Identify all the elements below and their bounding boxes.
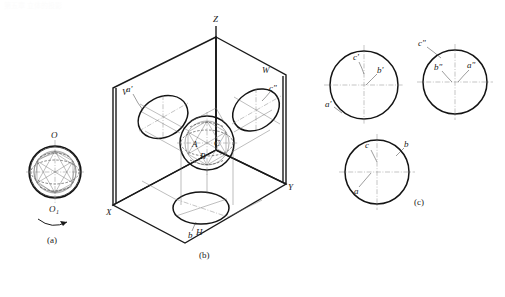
leader-b-prime-c bbox=[366, 74, 377, 85]
caption-b: (b) bbox=[199, 250, 210, 260]
label-b-b: b bbox=[188, 230, 193, 240]
figure-page: 第五章 立体的投影 bbox=[0, 0, 505, 297]
panel-a: O O 1 (a) bbox=[26, 130, 84, 245]
axis-label-z: Z bbox=[213, 14, 219, 24]
label-a-prime-b: a' bbox=[126, 84, 134, 94]
caption-a: (a) bbox=[47, 235, 57, 245]
leader-c-dprime-c bbox=[427, 47, 441, 58]
caption-c: (c) bbox=[414, 197, 424, 207]
panel-b: Z X Y V W H a' bbox=[105, 14, 294, 260]
leader-c-prime-c bbox=[359, 62, 364, 74]
projection-side-ellipse bbox=[225, 80, 288, 139]
page-header-text: 第五章 立体的投影 bbox=[4, 1, 62, 10]
leader-b-dprime-c bbox=[442, 71, 452, 82]
leader-a-prime bbox=[133, 94, 143, 110]
plane-v bbox=[113, 37, 216, 205]
technical-figure: 第五章 立体的投影 bbox=[0, 0, 505, 297]
panel-c: c' b' a' c" b" a" bbox=[324, 38, 493, 210]
leader-c-c bbox=[371, 150, 377, 162]
label-c-prime: c' bbox=[353, 52, 360, 62]
label-a-prime: a' bbox=[325, 99, 333, 109]
leader-a-c bbox=[359, 173, 371, 187]
axis-label-y: Y bbox=[288, 182, 294, 192]
label-b-prime: b' bbox=[377, 65, 385, 75]
plane-label-h: H bbox=[195, 227, 203, 237]
leader-c-dprime bbox=[262, 92, 270, 101]
side-view: c" b" a" bbox=[417, 38, 493, 120]
top-view: c b a bbox=[339, 134, 415, 210]
label-b-plain: b bbox=[404, 139, 409, 149]
label-a-dprime: a" bbox=[467, 60, 476, 70]
label-point-c: C bbox=[214, 138, 221, 148]
label-c-dprime: c" bbox=[418, 38, 426, 48]
label-point-b: B bbox=[200, 151, 206, 161]
label-o-bottom-subscript: 1 bbox=[56, 209, 59, 215]
label-c-dprime-b: c" bbox=[269, 83, 277, 93]
leader-a-dprime-c bbox=[458, 70, 469, 82]
label-c-plain: c bbox=[365, 140, 369, 150]
label-b-dprime: b" bbox=[434, 62, 443, 72]
rotation-arrow bbox=[38, 219, 67, 226]
front-view: c' b' a' bbox=[324, 45, 404, 125]
label-a-plain: a bbox=[354, 186, 359, 196]
label-o-bottom: O bbox=[49, 204, 56, 214]
label-point-a: A bbox=[191, 139, 198, 149]
projection-top-ellipse bbox=[173, 192, 229, 224]
axis-label-x: X bbox=[105, 207, 112, 217]
label-o-top: O bbox=[51, 130, 58, 140]
